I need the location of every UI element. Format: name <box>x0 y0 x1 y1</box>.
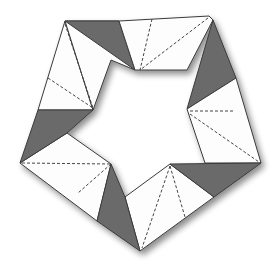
origami-diagram: Origami pentagon ring (five-module assem… <box>0 0 277 278</box>
pentagon-ring-figure <box>0 0 277 278</box>
ring-group <box>20 16 261 251</box>
module-top-white <box>119 16 213 70</box>
